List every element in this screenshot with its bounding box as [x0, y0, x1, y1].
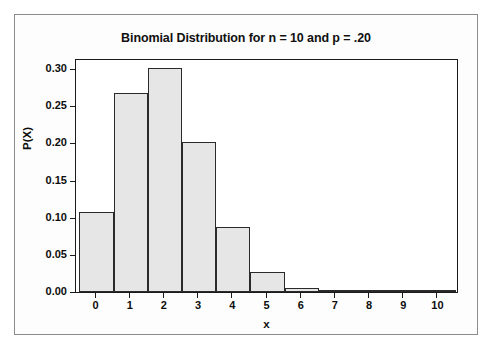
bar-10: [421, 290, 455, 292]
x-tick-label: 4: [222, 299, 242, 311]
x-axis-title: x: [75, 318, 458, 330]
bar-4: [216, 227, 250, 292]
x-tick-mark: [95, 293, 96, 298]
x-tick-label: 9: [393, 299, 413, 311]
x-tick-label: 5: [257, 299, 277, 311]
x-tick-mark: [197, 293, 198, 298]
chart-card: Binomial Distribution for n = 10 and p =…: [14, 14, 478, 335]
x-tick-label: 3: [188, 299, 208, 311]
x-tick-label: 2: [154, 299, 174, 311]
bar-6: [285, 288, 319, 292]
x-tick-label: 6: [291, 299, 311, 311]
x-tick-label: 1: [120, 299, 140, 311]
plot-area: [76, 60, 457, 292]
x-tick-mark: [231, 293, 232, 298]
x-tick-mark: [368, 293, 369, 298]
x-tick-mark: [436, 293, 437, 298]
y-tick-mark: [70, 69, 75, 70]
bar-9: [387, 290, 421, 292]
bar-5: [250, 272, 284, 292]
plot-frame: [75, 59, 458, 293]
bar-2: [148, 68, 182, 292]
bar-7: [319, 290, 353, 292]
y-tick-label: 0.30: [46, 62, 67, 74]
y-tick-mark: [70, 181, 75, 182]
x-tick-mark: [129, 293, 130, 298]
y-tick-mark: [70, 255, 75, 256]
y-tick-mark: [70, 143, 75, 144]
y-tick-label: 0.15: [46, 174, 67, 186]
x-tick-mark: [334, 293, 335, 298]
x-axis-ticks: 012345678910: [15, 293, 477, 317]
y-axis-ticks: 0.000.050.100.150.200.250.30: [15, 15, 75, 334]
bar-0: [79, 212, 113, 292]
x-tick-label: 8: [359, 299, 379, 311]
y-tick-mark: [70, 218, 75, 219]
x-tick-mark: [163, 293, 164, 298]
y-tick-mark: [70, 106, 75, 107]
chart-title: Binomial Distribution for n = 10 and p =…: [15, 31, 477, 45]
x-tick-label: 7: [325, 299, 345, 311]
y-tick-label: 0.10: [46, 211, 67, 223]
bar-3: [182, 142, 216, 292]
x-tick-mark: [402, 293, 403, 298]
x-tick-label: 0: [86, 299, 106, 311]
y-tick-label: 0.25: [46, 99, 67, 111]
chart-screenshot: Binomial Distribution for n = 10 and p =…: [0, 0, 493, 351]
bar-8: [353, 290, 387, 292]
x-tick-label: 10: [427, 299, 447, 311]
y-tick-label: 0.20: [46, 136, 67, 148]
y-tick-label: 0.05: [46, 248, 67, 260]
x-tick-mark: [266, 293, 267, 298]
bar-1: [114, 93, 148, 292]
x-tick-mark: [300, 293, 301, 298]
